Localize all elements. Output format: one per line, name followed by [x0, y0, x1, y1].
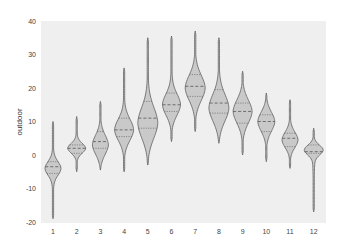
y-axis-label: outdoor	[15, 108, 24, 135]
y-tick-label: 20	[28, 85, 36, 92]
x-tick-label: 8	[217, 228, 221, 235]
y-axis-ticks: 403020100-10-20	[26, 18, 36, 226]
violin-chart: 403020100-10-20 123456789101112 outdoor	[0, 0, 337, 246]
x-axis-ticks: 123456789101112	[51, 228, 318, 235]
x-tick-label: 11	[286, 228, 293, 235]
y-tick-label: 30	[28, 51, 36, 58]
x-tick-label: 3	[98, 228, 102, 235]
x-tick-label: 5	[146, 228, 150, 235]
x-tick-label: 9	[241, 228, 245, 235]
x-tick-label: 12	[310, 228, 318, 235]
y-tick-label: -20	[26, 219, 36, 226]
x-tick-label: 10	[262, 228, 270, 235]
y-tick-label: 10	[28, 118, 36, 125]
x-tick-label: 6	[170, 228, 174, 235]
x-tick-label: 7	[193, 228, 197, 235]
y-tick-label: 40	[28, 18, 36, 25]
plot-area	[41, 21, 326, 223]
y-tick-label: -10	[26, 185, 36, 192]
x-tick-label: 2	[75, 228, 79, 235]
x-tick-label: 1	[51, 228, 55, 235]
y-tick-label: 0	[32, 152, 36, 159]
x-tick-label: 4	[122, 228, 126, 235]
